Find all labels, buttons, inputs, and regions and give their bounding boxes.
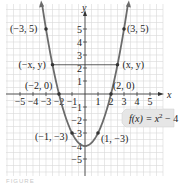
y-tick-label: 1 [77, 76, 82, 87]
data-point [44, 27, 48, 31]
x-tick-label: 5 [148, 96, 153, 107]
y-tick-label: −5 [71, 154, 82, 165]
data-point [57, 92, 61, 96]
svg-text:f(x) = x2 − 4: f(x) = x2 − 4 [129, 112, 178, 125]
y-tick-label: −1 [71, 102, 82, 113]
y-tick-label: −2 [71, 115, 82, 126]
y-tick-label: −4 [71, 141, 82, 152]
y-tick-label: 4 [77, 37, 82, 48]
y-tick-label: 5 [77, 24, 82, 35]
x-tick-label: −5 [15, 96, 26, 107]
data-point [116, 63, 120, 67]
point-label: (−2, 0) [25, 80, 52, 92]
data-point [51, 63, 55, 67]
x-tick-label: 4 [135, 96, 140, 107]
point-label: (3, 5) [127, 23, 149, 35]
y-tick-label: 2 [77, 63, 82, 74]
point-label: (x, y) [123, 59, 145, 71]
point-label: (−x, y) [19, 59, 46, 71]
data-point [96, 131, 100, 135]
y-axis-label: y [81, 2, 87, 13]
x-tick-label: −3 [41, 96, 52, 107]
figure-caption: FIGURE [6, 178, 35, 184]
point-label: (1, −3) [101, 133, 128, 145]
point-label: (−3, 5) [10, 23, 37, 35]
x-tick-label: 3 [122, 96, 127, 107]
parabola-chart: xy −5−4−3−2−11234554321−1−2−3−4−5 (−3, 5… [0, 0, 183, 186]
function-label: f(x) = x2 − 4 [122, 109, 178, 127]
x-tick-label: −4 [28, 96, 39, 107]
data-point [109, 92, 113, 96]
data-point [122, 27, 126, 31]
point-label: (−1, −3) [35, 131, 68, 143]
point-label: (2, 0) [113, 80, 135, 92]
data-point [70, 131, 74, 135]
x-tick-label: 1 [96, 96, 101, 107]
y-tick-label: 3 [77, 50, 82, 61]
x-axis-label: x [166, 89, 172, 100]
